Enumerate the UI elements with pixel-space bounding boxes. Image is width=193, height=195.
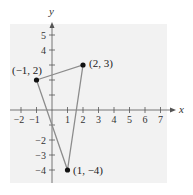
- y-tick-label: −2: [35, 135, 46, 146]
- point-label: (1, −4): [73, 164, 103, 177]
- x-axis-label: x: [178, 103, 184, 115]
- x-tick-label: 1: [65, 114, 70, 125]
- x-tick-label: 6: [143, 114, 148, 125]
- point-marker: [65, 167, 70, 172]
- y-tick-label: 4: [41, 45, 46, 56]
- x-tick-label: 7: [158, 114, 163, 125]
- point-label: (−1, 2): [12, 64, 42, 77]
- y-tick-label: −4: [35, 165, 46, 176]
- x-tick-label: 3: [96, 114, 101, 125]
- plot-background: [10, 24, 167, 183]
- point-marker: [34, 77, 39, 82]
- y-tick-label: −3: [35, 150, 46, 161]
- x-tick-label: 2: [81, 114, 86, 125]
- coordinate-plane-chart: x −2 −1 1 2 3 4 5 6 7 y: [0, 0, 193, 195]
- x-tick-label: 5: [127, 114, 132, 125]
- x-axis-arrow-icon: [170, 108, 176, 113]
- x-tick-label: 4: [112, 114, 117, 125]
- x-tick-label: −1: [29, 114, 40, 125]
- point-marker: [80, 62, 85, 67]
- point-label: (2, 3): [89, 57, 113, 70]
- y-tick-label: 5: [41, 30, 46, 41]
- x-tick-label: −2: [14, 114, 25, 125]
- y-axis-label: y: [48, 5, 54, 17]
